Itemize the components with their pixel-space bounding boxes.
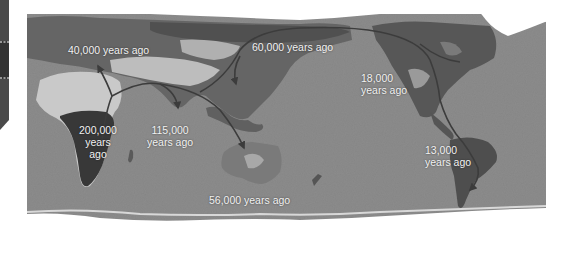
label-north-america: 18,000 years ago [361,72,407,96]
world-map: 40,000 years ago 200,000 years ago 115,0… [0,0,575,268]
label-africa: 200,000 years ago [79,124,117,160]
label-south-asia: 115,000 years ago [147,124,193,148]
label-europe: 40,000 years ago [68,44,149,56]
label-south-america: 13,000 years ago [425,144,471,168]
label-australia: 56,000 years ago [209,194,290,206]
label-east-asia: 60,000 years ago [252,41,333,53]
